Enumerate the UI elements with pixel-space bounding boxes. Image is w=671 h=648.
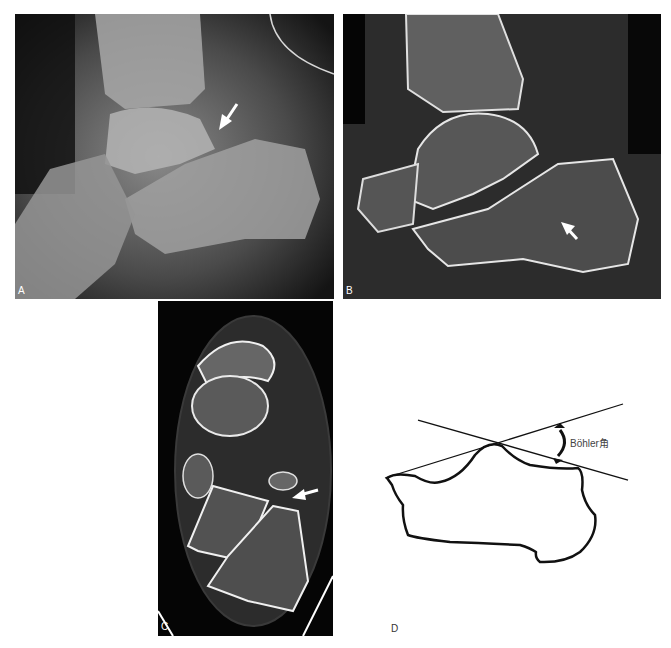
panel-c-axial-ct: C [158,301,333,636]
angle-arc-icon [553,423,565,464]
panel-b-sagittal-ct: B [343,14,661,299]
panel-label-c: C [161,622,168,632]
radiograph-image [15,14,334,299]
panel-label-d: D [391,624,398,634]
ct-axial-image [158,301,333,636]
panel-label-a: A [18,286,25,296]
bohler-angle-diagram [370,380,671,648]
ct-sagittal-image [343,14,661,299]
panel-d-diagram: Böhler角 D [370,380,671,648]
bohler-angle-label: Böhler角 [570,435,609,450]
panel-label-b: B [346,286,353,296]
panel-a-radiograph: A [15,14,334,299]
